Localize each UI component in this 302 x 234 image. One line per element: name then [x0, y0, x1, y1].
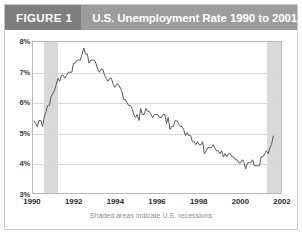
x-axis-tick-label: 2002 — [273, 197, 290, 206]
x-axis-tick-label: 1992 — [65, 197, 82, 206]
x-axis-tick-label: 1998 — [190, 197, 207, 206]
x-axis-tick-label: 1994 — [107, 197, 124, 206]
x-axis-labels: 1990199219941996199820002002 — [32, 197, 282, 209]
x-axis-tick-label: 1990 — [23, 197, 40, 206]
y-axis-tick-label: 7% — [6, 68, 30, 77]
figure-title: U.S. Unemployment Rate 1990 to 2001 — [81, 5, 297, 30]
x-axis-tick-label: 2000 — [232, 197, 249, 206]
unemployment-rate-line — [34, 48, 274, 169]
figure-header: FIGURE 1 U.S. Unemployment Rate 1990 to … — [5, 5, 297, 30]
y-axis-tick-label: 6% — [6, 98, 30, 107]
unemployment-line-series — [33, 42, 281, 193]
plot-region — [32, 41, 282, 194]
chart-caption: Shaded areas indicate U.S. recessions — [5, 212, 297, 219]
figure-number-label: FIGURE 1 — [5, 5, 81, 30]
x-axis-tick-label: 1996 — [148, 197, 165, 206]
chart-area: 8%7%6%5%4%3% 199019921994199619982000200… — [5, 30, 297, 229]
y-axis-tick-label: 8% — [6, 37, 30, 46]
y-axis-tick-label: 4% — [6, 159, 30, 168]
figure-container: FIGURE 1 U.S. Unemployment Rate 1990 to … — [0, 0, 302, 234]
y-axis-tick-label: 5% — [6, 129, 30, 138]
